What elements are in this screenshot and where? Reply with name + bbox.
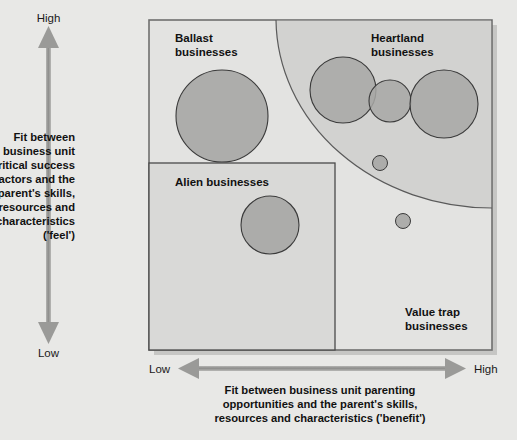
- bubble-heartland-unit-4: [373, 156, 388, 171]
- y-axis-title-line-6: resources and: [0, 201, 75, 213]
- y-axis-high-label: High: [37, 12, 61, 24]
- alien-quadrant-box: [149, 163, 335, 350]
- x-axis-title-line-3: resources and characteristics ('benefit'…: [214, 412, 425, 424]
- quadrant-label-value-trap-line2: businesses: [405, 320, 468, 332]
- matrix-svg: Ballast businesses Heartland businesses …: [0, 0, 517, 440]
- y-axis-title-line-4: factors and the: [0, 173, 75, 185]
- bubble-valuetrap-unit-1: [396, 214, 411, 229]
- x-axis-arrow: [178, 358, 466, 379]
- quadrant-label-value-trap-line1: Value trap: [405, 306, 460, 318]
- x-axis-title-line-2: opportunities and the parent's skills,: [223, 398, 418, 410]
- y-axis-title-line-7: characteristics: [0, 215, 75, 227]
- y-axis-title-line-2: business unit: [3, 145, 75, 157]
- y-axis-low-label: Low: [38, 347, 60, 359]
- bubble-alien-unit-1: [241, 196, 299, 254]
- bubble-heartland-unit-2: [369, 80, 411, 122]
- quadrant-label-ballast-line1: Ballast: [175, 32, 213, 44]
- y-axis-title-line-8: ('feel'): [43, 229, 75, 241]
- bubble-heartland-unit-1: [310, 57, 376, 123]
- quadrant-label-ballast-line2: businesses: [175, 46, 238, 58]
- quadrant-label-heartland-line1: Heartland: [371, 32, 424, 44]
- y-axis-title-line-1: Fit between: [13, 131, 75, 143]
- quadrant-label-heartland-line2: businesses: [371, 46, 434, 58]
- y-axis-title-line-3: critical success: [0, 159, 75, 171]
- x-axis-high-label: High: [474, 363, 498, 375]
- y-axis-arrow: [38, 26, 59, 344]
- quadrant-label-alien-line1: Alien businesses: [175, 176, 269, 188]
- matrix-diagram: Ballast businesses Heartland businesses …: [0, 0, 517, 440]
- x-axis-title: Fit between business unit parenting oppo…: [214, 384, 425, 424]
- bubble-heartland-unit-3: [410, 70, 478, 138]
- bubble-ballast-unit-1: [176, 70, 268, 162]
- x-axis-title-line-1: Fit between business unit parenting: [225, 384, 416, 396]
- y-axis-title-line-5: parent's skills,: [0, 187, 75, 199]
- y-axis-title: Fit between business unit critical succe…: [0, 131, 75, 241]
- x-axis-low-label: Low: [149, 363, 171, 375]
